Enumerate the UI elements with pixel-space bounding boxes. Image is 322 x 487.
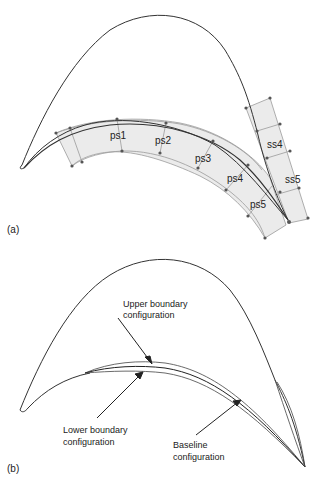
panel-label-ps4: ps4 bbox=[227, 173, 244, 184]
panel-label-ps2: ps2 bbox=[155, 135, 172, 146]
baseline-label-2: configuration bbox=[173, 452, 225, 462]
upper-boundary-label-1: Upper boundary bbox=[123, 299, 188, 309]
panel-a-tag: (a) bbox=[7, 224, 19, 235]
upper-boundary-label-2: configuration bbox=[123, 310, 175, 320]
annotation-arrows bbox=[97, 318, 241, 435]
panel-label-ps1: ps1 bbox=[110, 130, 127, 141]
panel-label-ps3: ps3 bbox=[195, 153, 212, 164]
panel-label-ss5: ss5 bbox=[285, 174, 301, 185]
blade-diagram: ps1 ps2 ps3 ps4 ps5 ss4 ss5 (a) Upper bo… bbox=[0, 0, 322, 487]
panel-b: Upper boundary configuration Lower bound… bbox=[7, 259, 305, 474]
panel-a: ps1 ps2 ps3 ps4 ps5 ss4 ss5 (a) bbox=[7, 15, 310, 239]
blade-outline-b bbox=[20, 259, 305, 467]
lower-boundary-label-2: configuration bbox=[63, 437, 115, 447]
panel-label-ps5: ps5 bbox=[250, 199, 267, 210]
baseline-label-1: Baseline bbox=[173, 440, 208, 450]
panel-label-ss4: ss4 bbox=[267, 139, 283, 150]
lower-boundary-label-1: Lower boundary bbox=[63, 425, 128, 435]
panel-b-tag: (b) bbox=[7, 463, 19, 474]
